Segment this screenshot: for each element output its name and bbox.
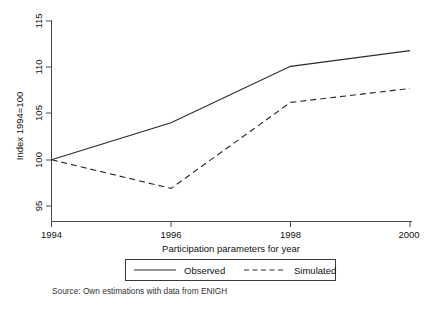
legend-label-observed: Observed xyxy=(184,265,225,276)
x-tick-label-1996: 1996 xyxy=(160,229,181,240)
y-axis-tick-labels: 115 110 105 100 95 xyxy=(33,13,44,211)
y-tick-label-115: 115 xyxy=(33,13,44,28)
y-tick-label-110: 110 xyxy=(33,59,44,74)
y-tick-label-100: 100 xyxy=(33,152,44,168)
y-tick-label-95: 95 xyxy=(33,201,44,212)
y-tick-label-105: 105 xyxy=(33,105,44,121)
y-axis-title: Index 1994=100 xyxy=(14,92,25,160)
x-axis-title: Participation parameters for year xyxy=(162,243,300,254)
x-tick-label-1994: 1994 xyxy=(41,229,62,240)
y-axis-ticks xyxy=(46,21,52,206)
x-tick-label-2000: 2000 xyxy=(398,229,419,240)
x-axis-ticks xyxy=(52,222,411,228)
x-axis-tick-labels: 1994 1996 1998 2000 xyxy=(41,229,420,240)
legend-label-simulated: Simulated xyxy=(294,265,336,276)
source-note: Source: Own estimations with data from E… xyxy=(52,286,227,296)
series-line-observed xyxy=(52,51,411,160)
chart-legend: Observed Simulated xyxy=(126,260,337,281)
line-chart-canvas: 115 110 105 100 95 Index 1994=100 1994 1… xyxy=(0,0,432,315)
chart-figure: 115 110 105 100 95 Index 1994=100 1994 1… xyxy=(0,0,432,315)
x-tick-label-1998: 1998 xyxy=(280,229,301,240)
series-line-simulated xyxy=(52,89,411,189)
